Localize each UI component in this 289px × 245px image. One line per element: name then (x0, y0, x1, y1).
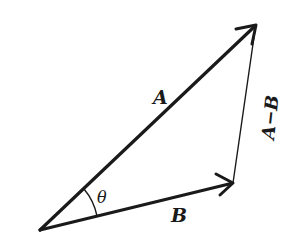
angle-arc (84, 189, 97, 216)
label-theta: θ (97, 188, 107, 207)
vector-a-minus-b (233, 30, 255, 183)
vector-b-line (40, 184, 231, 231)
vector-a (40, 25, 256, 230)
label-a: A (151, 86, 168, 108)
vector-a-minus-b-line (233, 30, 255, 183)
label-a-minus-b: A−B (257, 94, 283, 142)
label-b: B (170, 204, 187, 226)
vector-a-line (40, 27, 254, 230)
vector-diagram: A B θ A−B (0, 0, 289, 245)
